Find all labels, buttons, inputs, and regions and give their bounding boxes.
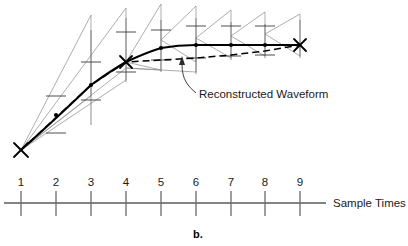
wedge-ramp-6 — [231, 12, 265, 36]
wedge-ramp-4 — [161, 6, 196, 40]
axis-tick-label-9: 9 — [297, 176, 303, 188]
wedge-lower-fan-a — [21, 68, 126, 150]
x-marker-start — [14, 143, 28, 157]
wedge-ramp-7 — [265, 14, 300, 34]
axis-tick-label-8: 8 — [262, 176, 268, 188]
wedge-ramp-2 — [21, 8, 126, 150]
waveform-diagram: Reconstructed Waveform 1 2 3 4 5 6 7 8 9… — [0, 0, 408, 246]
annotation-label: Reconstructed Waveform — [199, 88, 328, 100]
sample-axis: 1 2 3 4 5 6 7 8 9 Sample Times — [4, 176, 406, 216]
axis-tick-label-2: 2 — [53, 176, 59, 188]
sample-dot-7 — [229, 43, 233, 47]
axis-tick-label-1: 1 — [18, 176, 24, 188]
leader-line-path — [182, 64, 196, 93]
axis-label: Sample Times — [333, 197, 406, 209]
axis-tick-label-4: 4 — [123, 176, 130, 188]
figure-caption: b. — [193, 228, 203, 240]
annotation-leader — [179, 56, 196, 93]
axis-tick-label-6: 6 — [193, 176, 199, 188]
axis-tick-label-5: 5 — [158, 176, 164, 188]
sample-dot-2 — [54, 113, 58, 117]
axis-tick-label-7: 7 — [228, 176, 234, 188]
sample-dot-5 — [159, 46, 163, 50]
axis-tick-label-3: 3 — [88, 176, 94, 188]
wedge-ramp-1 — [21, 15, 91, 150]
wedge-ramp-5 — [196, 10, 231, 38]
sample-dot-6 — [194, 43, 198, 47]
leader-arrow-icon — [179, 56, 185, 65]
sample-dot-8 — [263, 43, 267, 47]
wedge-vertical-bar-group — [91, 18, 300, 125]
sample-dot-3 — [89, 83, 93, 87]
wedge-base-2 — [21, 80, 126, 150]
figure-container: Reconstructed Waveform 1 2 3 4 5 6 7 8 9… — [0, 0, 408, 246]
